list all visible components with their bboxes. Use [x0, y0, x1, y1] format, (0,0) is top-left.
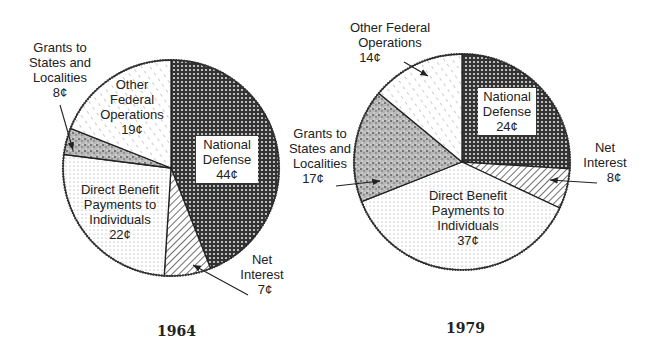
- label-1979-grants: Grants to States and Localities 17¢: [283, 126, 357, 186]
- title-1979: 1979: [446, 320, 485, 336]
- label-1979-other: Other Federal Operations 14¢: [335, 20, 445, 65]
- label-1979-interest: Net Interest 8¢: [574, 140, 636, 185]
- label-1979-defense: National Defense 24¢: [478, 88, 536, 135]
- label-1964-other: Other Federal Operations 19¢: [92, 77, 172, 137]
- label-1964-defense: National Defense 44¢: [196, 136, 258, 183]
- label-1964-interest: Net Interest 7¢: [232, 252, 292, 297]
- title-1964: 1964: [157, 323, 196, 339]
- label-1964-direct: Direct Benefit Payments to Individuals 2…: [70, 182, 170, 242]
- label-1979-direct: Direct Benefit Payments to Individuals 3…: [418, 188, 518, 248]
- label-1964-grants: Grants to States and Localities 8¢: [20, 40, 100, 100]
